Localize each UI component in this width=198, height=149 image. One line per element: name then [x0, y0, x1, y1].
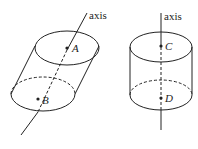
point-c-label: C — [165, 40, 173, 52]
right-cylinder — [130, 13, 192, 130]
bottom-back-arc — [11, 77, 75, 94]
point-d-label: D — [164, 92, 173, 104]
point-c-dot — [159, 44, 162, 47]
axis-bottom — [21, 112, 38, 135]
point-d-dot — [159, 96, 162, 99]
axis-label-right: axis — [164, 10, 182, 22]
point-b-label: B — [42, 94, 49, 106]
point-a-dot — [65, 46, 68, 49]
axis-label-left: axis — [89, 9, 107, 21]
left-side — [11, 46, 35, 94]
oblique-cylinder — [11, 13, 99, 135]
point-a-label: A — [71, 42, 79, 54]
cylinders-diagram: axis A B axis C D — [0, 0, 198, 149]
point-b-dot — [36, 97, 39, 100]
